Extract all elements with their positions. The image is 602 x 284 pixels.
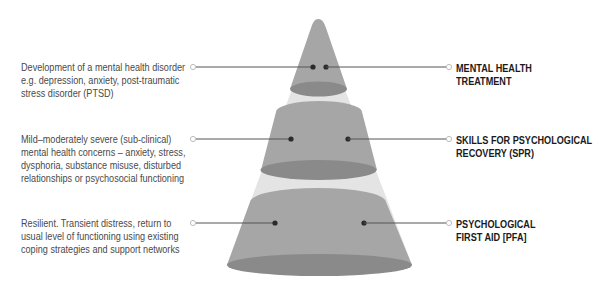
dot-icon bbox=[310, 64, 315, 69]
tier-label-line: MENTAL HEALTH bbox=[456, 62, 532, 75]
dot-icon bbox=[272, 220, 277, 225]
description-middle: Mild–moderately severe (sub-clinical) me… bbox=[21, 133, 185, 185]
tier-label-spr: SKILLS FOR PSYCHOLOGICAL RECOVERY (SPR) bbox=[456, 134, 592, 160]
anchor-circle-icon bbox=[446, 64, 451, 69]
description-line: relationships or psychosocial functionin… bbox=[21, 172, 185, 185]
tier-label-line: RECOVERY (SPR) bbox=[456, 147, 592, 160]
anchor-circle-icon bbox=[190, 64, 195, 69]
description-line: Resilient. Transient distress, return to bbox=[21, 217, 180, 230]
description-line: dysphoria, substance misuse, disturbed bbox=[21, 159, 185, 172]
tiered-cone-diagram: Development of a mental health disorder … bbox=[0, 0, 602, 284]
description-line: Mild–moderately severe (sub-clinical) bbox=[21, 133, 185, 146]
description-bottom: Resilient. Transient distress, return to… bbox=[21, 217, 180, 256]
description-line: Development of a mental health disorder bbox=[21, 61, 185, 74]
description-line: stress disorder (PTSD) bbox=[21, 87, 185, 100]
cone-segment-middle bbox=[261, 101, 378, 180]
tier-label-pfa: PSYCHOLOGICAL FIRST AID [PFA] bbox=[456, 218, 535, 244]
cone-segment-top bbox=[290, 19, 347, 97]
description-line: mental health concerns – anxiety, stress… bbox=[21, 146, 185, 159]
tier-label-mental-health-treatment: MENTAL HEALTH TREATMENT bbox=[456, 62, 532, 88]
description-line: e.g. depression, anxiety, post-traumatic bbox=[21, 74, 185, 87]
anchor-circle-icon bbox=[190, 136, 195, 141]
tier-label-line: SKILLS FOR PSYCHOLOGICAL bbox=[456, 134, 592, 147]
description-line: coping strategies and support networks bbox=[21, 243, 180, 256]
anchor-circle-icon bbox=[446, 220, 451, 225]
tier-label-line: PSYCHOLOGICAL bbox=[456, 218, 535, 231]
anchor-circle-icon bbox=[190, 220, 195, 225]
description-top: Development of a mental health disorder … bbox=[21, 61, 185, 100]
description-line: usual level of functioning using existin… bbox=[21, 230, 180, 243]
anchor-circle-icon bbox=[446, 136, 451, 141]
cone-segment-bottom bbox=[227, 188, 412, 276]
tier-label-line: FIRST AID [PFA] bbox=[456, 231, 535, 244]
dot-icon bbox=[288, 136, 293, 141]
tier-label-line: TREATMENT bbox=[456, 75, 532, 88]
